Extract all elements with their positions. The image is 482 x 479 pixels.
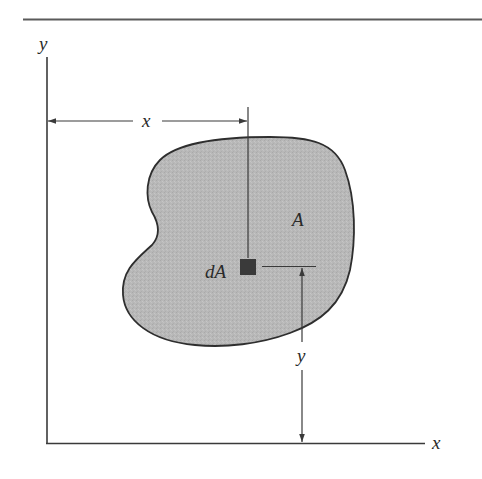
x-dimension-label: x [141,110,151,131]
y-axis-label: y [37,33,48,54]
da-label: dA [205,261,227,282]
x-axis-label: x [431,432,441,453]
area-region [123,137,354,346]
area-label: A [290,209,304,230]
diagram-canvas: y x x dA A y [0,0,482,479]
da-element [240,259,256,275]
x-dimension: x [48,110,247,131]
diagram-svg: y x x dA A y [0,0,482,479]
y-dimension-label: y [295,345,306,366]
